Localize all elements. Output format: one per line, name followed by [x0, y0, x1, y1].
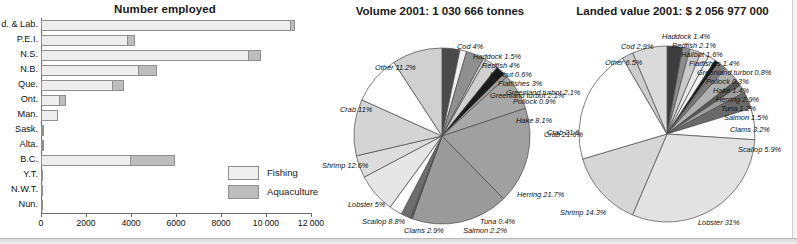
bar-category-label: N.S.: [20, 49, 38, 59]
x-tick-label: 10 000: [253, 218, 279, 228]
bar-row: N.B.: [0, 65, 330, 76]
bar-stack: [41, 35, 135, 46]
bar-segment-fishing: [41, 110, 58, 121]
pie-slice-label: Cod 2.9%: [621, 42, 653, 51]
bar-stack: [41, 50, 261, 61]
pie-slice-label: Other 6.5%: [605, 58, 642, 67]
bar-row: N.S.: [0, 50, 330, 61]
bar-segment-aquaculture: [127, 35, 135, 46]
bar-segment-aquaculture: [59, 95, 66, 106]
bar-segment-aquaculture: [248, 50, 260, 61]
bar-segment-fishing: [41, 65, 139, 76]
pie-slice-label: Redfish 2.1%: [672, 41, 716, 50]
pie-slice-label: Salmon 1.5%: [724, 113, 768, 122]
pie-slice-label: Hake 1.4%: [713, 86, 749, 95]
pie-slice-label: Crab 11%: [340, 105, 372, 114]
pie-slice-label: Scallop 8.8%: [362, 217, 405, 226]
bar-row: Ont.: [0, 95, 330, 106]
bar-category-label: Que.: [18, 79, 38, 89]
bar-segment-fishing: [41, 155, 131, 166]
bar-stack: [41, 200, 43, 211]
bar-stack: [41, 185, 43, 196]
pie-slice-label: Shrimp 12.6%: [322, 161, 368, 170]
bar-row: d. & Lab.: [0, 20, 330, 31]
bar-segment-fishing: [41, 50, 249, 61]
pie-chart-landed-value-2001: Landed value 2001: $ 2 056 977 000 Haddo…: [552, 0, 793, 239]
bar-segment-aquaculture: [42, 125, 44, 136]
bar-stack: [41, 170, 43, 181]
bar-category-label: Nun.: [19, 199, 38, 209]
bar-category-label: N.W.T.: [11, 184, 38, 194]
bar-stack: [41, 80, 124, 91]
pie-slice-label: Greenland turbot 2.1%: [490, 91, 564, 100]
bar-row: P.E.I.: [0, 35, 330, 46]
legend-swatch-aquaculture: [228, 185, 259, 199]
bar-stack: [41, 65, 157, 76]
x-tick-label: 8000: [211, 218, 230, 228]
bar-category-label: Y.T.: [23, 169, 38, 179]
pie-slice-label: Flatfishes 1.4%: [689, 59, 740, 68]
pie-slice-label: Salmon 2.2%: [463, 226, 507, 235]
x-tick-label: 2000: [76, 218, 95, 228]
pie-slice-label: Redfish 4%: [482, 61, 520, 70]
bar-segment-fishing: [41, 170, 43, 181]
pie-slice-label: Shrimp 14.3%: [560, 208, 606, 217]
bar-category-label: Ont.: [21, 94, 38, 104]
bar-category-label: Sask.: [15, 124, 38, 134]
pie-chart-volume-2001: Volume 2001: 1 030 666 tonnes Cod 4%Hadd…: [320, 0, 560, 239]
bar-category-label: Alta.: [20, 139, 38, 149]
x-tick-mark: [131, 213, 132, 217]
bar-row: Que.: [0, 80, 330, 91]
pie-slice-label: Haddock 1.4%: [662, 32, 710, 41]
pie-slice-label: Halibut 1.6%: [681, 50, 723, 59]
bar-segment-fishing: [41, 20, 291, 31]
bar-category-label: B.C.: [20, 154, 38, 164]
pie-slice-label: Tuna 1.2%: [721, 104, 756, 113]
x-tick-mark: [221, 213, 222, 217]
x-tick-label: 6000: [166, 218, 185, 228]
bar-stack: [41, 155, 175, 166]
bar-segment-aquaculture: [42, 140, 44, 151]
bar-segment-aquaculture: [112, 80, 124, 91]
legend-label-aquaculture: Aquaculture: [267, 186, 318, 197]
bar-category-label: P.E.I.: [17, 34, 38, 44]
bar-segment-fishing: [41, 200, 43, 211]
pie-slice-label: Haddock 1.5%: [473, 52, 521, 61]
pie-slice-label: Cod 4%: [457, 42, 483, 51]
bar-stack: [41, 125, 44, 136]
pie-slice-label: Greenland turbot 0.8%: [697, 68, 771, 77]
pie-slice-label: Halibut 0.6%: [490, 70, 532, 79]
pie-slice-label: Pollock 0.3%: [706, 77, 749, 86]
legend-item-aquaculture: Aquaculture: [228, 183, 318, 200]
legend-label-fishing: Fishing: [267, 167, 298, 178]
bar-segment-aquaculture: [290, 20, 296, 31]
x-tick-label: 0: [39, 218, 44, 228]
x-tick-mark: [266, 213, 267, 217]
bar-segment-fishing: [41, 80, 113, 91]
bar-chart-number-employed: Number employed d. & Lab.P.E.I.N.S.N.B.Q…: [0, 0, 330, 239]
x-tick-mark: [41, 213, 42, 217]
bar-row: Sask.: [0, 125, 330, 136]
bar-row: Alta.: [0, 140, 330, 151]
pie-slice-label: Clams 2.9%: [404, 226, 444, 235]
legend-swatch-fishing: [228, 166, 259, 180]
bar-segment-fishing: [41, 95, 60, 106]
pie-slice-label: Lobster 31%: [698, 218, 740, 227]
bar-category-label: d. & Lab.: [1, 19, 38, 29]
x-tick-mark: [311, 213, 312, 217]
pie-slice-label: Crab 21.6%: [544, 130, 583, 139]
x-tick-mark: [86, 213, 87, 217]
bar-segment-aquaculture: [130, 155, 175, 166]
bar-stack: [41, 140, 44, 151]
bar-segment-aquaculture: [138, 65, 157, 76]
bar-stack: [41, 95, 66, 106]
bar-category-label: Man.: [18, 109, 38, 119]
bar-category-label: N.B.: [20, 64, 38, 74]
panel-right-edge: [792, 0, 797, 239]
pie-slice-label: Hake 8.1%: [516, 116, 552, 125]
pie-slice-label: Scallop 5.9%: [738, 145, 781, 154]
bar-stack: [41, 20, 295, 31]
figure-panel: Number employed d. & Lab.P.E.I.N.S.N.B.Q…: [0, 0, 797, 244]
pie-slice-label: Herring 2.9%: [716, 95, 759, 104]
bar-chart-legend: Fishing Aquaculture: [228, 164, 318, 202]
